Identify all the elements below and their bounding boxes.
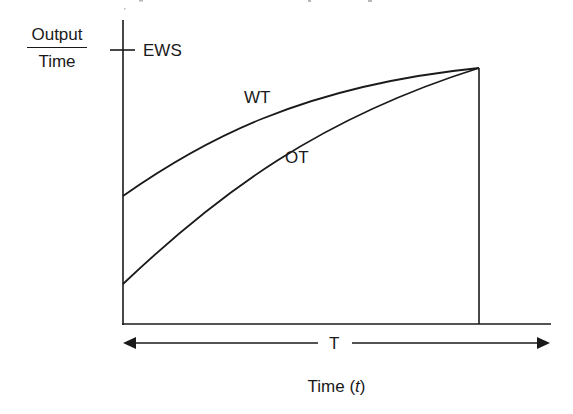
- ot-curve-label: OT: [285, 149, 309, 166]
- ews-label: EWS: [143, 42, 182, 59]
- diagram-figure: Output Time EWS WT OT T Time (t): [0, 0, 573, 414]
- y-axis-label-numerator: Output: [28, 26, 86, 47]
- ot-curve: [123, 68, 479, 284]
- y-axis-label: Output Time: [28, 26, 86, 70]
- arrowhead-right-icon: [537, 337, 550, 349]
- wt-curve-label: WT: [244, 89, 270, 106]
- arrowhead-left-icon: [123, 337, 136, 349]
- x-axis-label-close: ): [360, 377, 366, 396]
- cropped-heading-fragment: [124, 0, 372, 10]
- y-axis-label-denominator: Time: [28, 48, 86, 70]
- x-axis-label: Time (t): [0, 377, 573, 397]
- x-axis-label-text: Time (: [308, 377, 356, 396]
- span-t-label: T: [329, 335, 339, 352]
